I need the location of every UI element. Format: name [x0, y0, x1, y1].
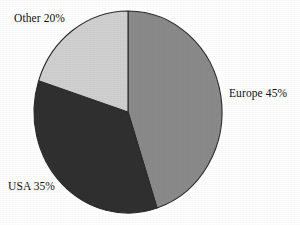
pie-chart: Other 20% Europe 45% USA 35%: [0, 0, 300, 225]
pie-chart-page: Other 20% Europe 45% USA 35%: [0, 0, 300, 225]
pie-label-other: Other 20%: [14, 12, 65, 25]
pie-label-europe: Europe 45%: [229, 87, 287, 100]
pie-label-usa: USA 35%: [8, 180, 55, 193]
